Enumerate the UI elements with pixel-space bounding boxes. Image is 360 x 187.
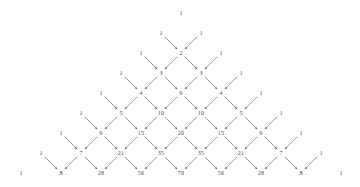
sum-arrow (125, 77, 137, 89)
sum-arrow (245, 117, 257, 129)
triangle-value: 1 (259, 90, 262, 96)
sum-arrow (125, 117, 137, 129)
sum-arrow (205, 117, 217, 129)
triangle-value: 1 (239, 70, 242, 76)
sum-arrow (245, 137, 257, 149)
sum-arrow (65, 157, 77, 169)
sum-arrow (185, 137, 197, 149)
sum-arrow (105, 117, 117, 129)
triangle-value: 1 (299, 130, 302, 136)
sum-arrow (45, 157, 57, 169)
sum-arrow (165, 117, 177, 129)
sum-arrow (185, 77, 197, 89)
triangle-value: 5 (119, 110, 122, 116)
triangle-value: 28 (98, 170, 104, 176)
triangle-value: 10 (198, 110, 204, 116)
triangle-value: 1 (119, 70, 122, 76)
sum-arrow (225, 97, 237, 109)
triangle-value: 56 (138, 170, 144, 176)
sum-arrow (125, 97, 137, 109)
sum-arrow (245, 97, 257, 109)
triangle-value: 15 (138, 130, 144, 136)
sum-arrow (105, 157, 117, 169)
sum-arrow (285, 137, 297, 149)
triangle-value: 1 (59, 130, 62, 136)
sum-arrow (165, 137, 177, 149)
triangle-value: 1 (179, 10, 182, 16)
triangle-value: 6 (99, 130, 102, 136)
triangle-value: 3 (199, 70, 202, 76)
triangle-value: 15 (218, 130, 224, 136)
triangle-value: 20 (178, 130, 184, 136)
pascals-triangle-figure: 1111211331146411510105116152015611721353… (0, 0, 360, 187)
sum-arrow (205, 97, 217, 109)
sum-arrow (125, 137, 137, 149)
sum-arrow (105, 137, 117, 149)
triangle-value: 3 (159, 70, 162, 76)
sum-arrow (185, 37, 197, 49)
sum-arrow (225, 137, 237, 149)
sum-arrow (85, 137, 97, 149)
sum-arrow (185, 117, 197, 129)
sum-arrow (265, 117, 277, 129)
triangle-value: 21 (118, 150, 124, 156)
triangle-value: 35 (198, 150, 204, 156)
sum-arrow (185, 57, 197, 69)
sum-arrow (145, 137, 157, 149)
sum-arrow (165, 57, 177, 69)
sum-arrow (85, 117, 97, 129)
sum-arrow (205, 137, 217, 149)
triangle-value: 1 (79, 110, 82, 116)
triangle-value: 1 (139, 50, 142, 56)
triangle-value: 6 (179, 90, 182, 96)
sum-arrow (85, 157, 97, 169)
triangle-value: 1 (39, 150, 42, 156)
sum-arrow (225, 117, 237, 129)
triangle-value: 1 (339, 170, 342, 176)
triangle-value: 2 (179, 50, 182, 56)
sum-arrow (205, 77, 217, 89)
triangle-value: 56 (218, 170, 224, 176)
sum-arrow (125, 157, 137, 169)
triangle-value: 1 (199, 30, 202, 36)
sum-arrow (225, 157, 237, 169)
triangle-value: 35 (158, 150, 164, 156)
triangle-value: 1 (99, 90, 102, 96)
triangle-value: 8 (59, 170, 62, 176)
sum-arrow (185, 97, 197, 109)
sum-arrow (65, 137, 77, 149)
sum-arrow (265, 137, 277, 149)
sum-arrow (165, 157, 177, 169)
sum-arrow (165, 37, 177, 49)
triangle-value: 5 (239, 110, 242, 116)
sum-arrow (245, 157, 257, 169)
triangle-value: 1 (19, 170, 22, 176)
triangle-value: 1 (159, 30, 162, 36)
triangle-value: 10 (158, 110, 164, 116)
sum-arrow (145, 97, 157, 109)
triangle-value: 1 (319, 150, 322, 156)
triangle-value: 8 (299, 170, 302, 176)
sum-arrow (145, 77, 157, 89)
sum-arrow (165, 97, 177, 109)
triangle-value: 7 (79, 150, 82, 156)
sum-arrow (145, 57, 157, 69)
sum-arrow (145, 117, 157, 129)
triangle-value: 6 (259, 130, 262, 136)
sum-arrow (265, 157, 277, 169)
sum-arrow (285, 157, 297, 169)
sum-arrow (185, 157, 197, 169)
sum-arrow (205, 157, 217, 169)
triangle-value: 4 (139, 90, 142, 96)
sum-arrow (165, 77, 177, 89)
sum-arrow (305, 157, 317, 169)
triangle-value: 70 (178, 170, 184, 176)
triangle-value: 28 (258, 170, 264, 176)
triangle-value: 1 (279, 110, 282, 116)
triangle-value: 4 (219, 90, 222, 96)
sum-arrow (105, 97, 117, 109)
triangle-value: 1 (219, 50, 222, 56)
sum-arrow (205, 57, 217, 69)
sum-arrow (145, 157, 157, 169)
triangle-value: 7 (279, 150, 282, 156)
